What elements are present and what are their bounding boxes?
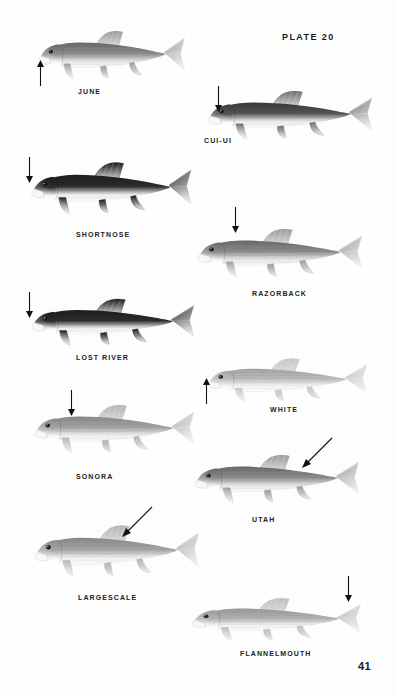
fish-illustration-flannelmouth <box>182 592 367 647</box>
fish-label-flannelmouth: FLANNELMOUTH <box>240 650 312 657</box>
fish-figure-flannelmouth: FLANNELMOUTH <box>0 0 395 696</box>
pointer-caudal-peduncle-flannelmouth <box>344 576 353 602</box>
plate-page: PLATE 20 41 <box>0 0 395 696</box>
arrow-down-icon <box>344 576 353 602</box>
fish-illustration-svg <box>182 592 367 647</box>
